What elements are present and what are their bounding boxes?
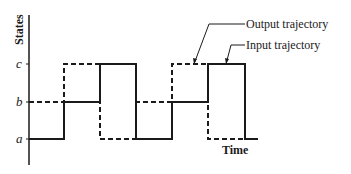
state-label-c: c [16,56,22,71]
state-trajectory-diagram: States c b a Output trajectory Input tra… [0,0,351,174]
y-axis-label: States [12,14,26,45]
x-axis-label: Time [222,143,249,157]
state-label-b: b [16,94,23,109]
output-callout-leader [194,24,245,64]
state-label-a: a [16,131,23,146]
input-callout-label: Input trajectory [246,38,320,52]
input-callout-leader [226,45,245,64]
output-callout-label: Output trajectory [246,17,328,31]
